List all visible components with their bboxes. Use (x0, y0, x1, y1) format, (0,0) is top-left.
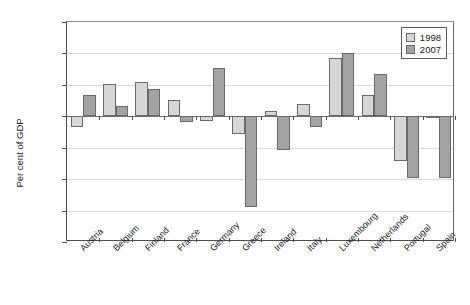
gridline (67, 53, 453, 54)
x-tick (99, 116, 100, 120)
plot-area: 1998 2007 (66, 21, 454, 241)
bar-netherlands-2007 (374, 74, 387, 117)
bar-france-2007 (180, 116, 193, 122)
y-tick (62, 116, 67, 117)
bar-belgium-2007 (116, 106, 129, 116)
bar-ireland-1998 (265, 111, 278, 116)
y-tick (62, 179, 67, 180)
x-tick (261, 116, 262, 120)
x-tick (455, 116, 456, 120)
bar-portugal-1998 (394, 116, 407, 161)
bar-austria-1998 (71, 116, 84, 127)
x-tick (423, 116, 424, 120)
y-tick (62, 22, 67, 23)
bar-netherlands-1998 (362, 95, 375, 116)
bar-france-1998 (168, 100, 181, 116)
bar-luxembourg-2007 (342, 53, 355, 116)
y-axis-title: Per cent of GDP (14, 93, 25, 213)
x-tick (229, 116, 230, 120)
x-tick (358, 116, 359, 120)
x-tick (132, 116, 133, 120)
y-tick (62, 148, 67, 149)
y-tick (62, 85, 67, 86)
gridline (67, 211, 453, 212)
legend-label-2007: 2007 (420, 44, 441, 55)
y-tick (62, 211, 67, 212)
legend-swatch-2007 (406, 45, 415, 54)
bar-greece-1998 (232, 116, 245, 134)
legend: 1998 2007 (401, 27, 447, 59)
bar-finland-2007 (148, 89, 161, 116)
x-tick (196, 116, 197, 120)
y-tick (62, 242, 67, 243)
bar-luxembourg-1998 (329, 58, 342, 116)
bar-germany-1998 (200, 116, 213, 120)
y-tick (62, 53, 67, 54)
legend-label-1998: 1998 (420, 32, 441, 43)
gridline (67, 85, 453, 86)
x-tick (326, 116, 327, 120)
bar-portugal-2007 (407, 116, 420, 178)
bar-austria-2007 (83, 95, 96, 116)
bar-greece-2007 (245, 116, 258, 207)
legend-swatch-1998 (406, 33, 415, 42)
bar-spain-1998 (426, 116, 439, 118)
bar-spain-2007 (439, 116, 452, 178)
bar-finland-1998 (135, 82, 148, 117)
bar-italy-2007 (310, 116, 323, 127)
bar-ireland-2007 (277, 116, 290, 149)
bar-italy-1998 (297, 104, 310, 116)
x-tick (390, 116, 391, 120)
bar-belgium-1998 (103, 84, 116, 117)
bar-chart: Per cent of GDP 1998 2007 151050-5-10-15… (0, 0, 470, 305)
x-tick-bottom (326, 238, 327, 242)
x-tick (164, 116, 165, 120)
legend-item-1998: 1998 (406, 31, 441, 43)
bar-germany-2007 (213, 68, 226, 116)
legend-item-2007: 2007 (406, 43, 441, 55)
gridline (67, 179, 453, 180)
x-tick (293, 116, 294, 120)
